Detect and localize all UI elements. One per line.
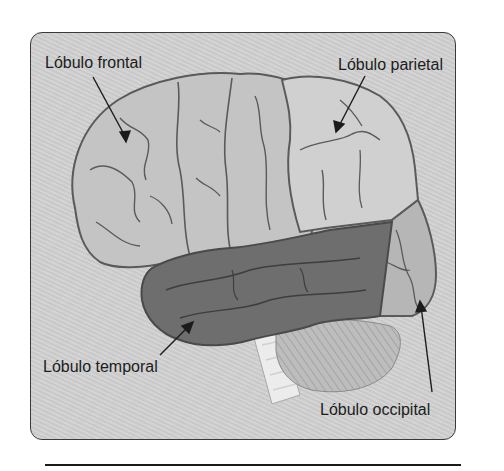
- bottom-divider: [45, 464, 461, 466]
- label-parietal-lobe: Lóbulo parietal: [338, 57, 443, 73]
- frontal-lobe: [72, 73, 320, 267]
- label-occipital-lobe: Lóbulo occipital: [320, 402, 430, 418]
- arrow-occipital: [421, 306, 432, 392]
- parietal-lobe: [282, 77, 418, 232]
- label-frontal-lobe: Lóbulo frontal: [45, 55, 142, 71]
- label-temporal-lobe: Lóbulo temporal: [43, 359, 158, 375]
